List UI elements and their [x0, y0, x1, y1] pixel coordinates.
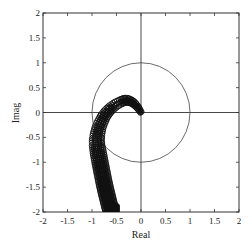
tick-labels: -2-1.5-1-0.500.511.5221.510.50-0.5-1-1.5… — [26, 8, 242, 226]
y-tick-label: 0 — [36, 108, 41, 118]
y-tick-label: -1.5 — [26, 182, 41, 192]
x-tick-label: -0.5 — [109, 216, 124, 226]
x-tick-label: -1 — [88, 216, 96, 226]
x-tick-label: 0 — [139, 216, 144, 226]
y-axis-title: Imag — [10, 103, 21, 124]
y-tick-label: -0.5 — [26, 132, 41, 142]
y-tick-label: 1 — [36, 58, 41, 68]
y-tick-label: -2 — [33, 207, 41, 217]
x-tick-label: -1.5 — [60, 216, 75, 226]
x-tick-label: 2 — [237, 216, 242, 226]
chart: -2-1.5-1-0.500.511.5221.510.50-0.5-1-1.5… — [0, 0, 252, 250]
x-tick-label: 1.5 — [209, 216, 221, 226]
x-axis-title: Real — [132, 229, 151, 240]
x-tick-label: 1 — [188, 216, 193, 226]
y-tick-label: -1 — [33, 157, 41, 167]
data-markers — [89, 95, 144, 220]
y-tick-label: 1.5 — [29, 33, 41, 43]
x-tick-label: -2 — [39, 216, 47, 226]
plot-area — [43, 13, 239, 220]
y-tick-label: 0.5 — [29, 83, 41, 93]
x-tick-label: 0.5 — [160, 216, 172, 226]
y-tick-label: 2 — [36, 8, 41, 18]
